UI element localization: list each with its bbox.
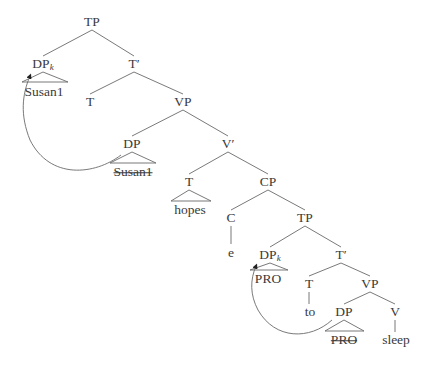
node-label-cp: CP: [260, 175, 277, 189]
node-label-tbar1: T′: [128, 57, 139, 71]
node-label-vp2: VP: [361, 277, 378, 291]
tree-branch: [183, 110, 228, 136]
node-label-dp1: DP: [123, 137, 140, 151]
node-text: V′: [222, 136, 235, 151]
tree-edges: [0, 0, 424, 366]
node-label-tp1: TP: [84, 15, 100, 29]
tree-branch: [305, 226, 341, 247]
node-label-tbar2: T′: [335, 248, 346, 262]
constituent-triangle: [171, 190, 211, 201]
tree-branch: [228, 152, 268, 174]
node-text: PRO: [255, 271, 281, 286]
node-label-susan_a: Susan1: [24, 85, 63, 99]
node-label-dp2: DP: [335, 305, 352, 319]
constituent-triangle: [22, 72, 68, 82]
node-label-t2: T: [185, 175, 193, 189]
constituent-triangle: [325, 320, 364, 331]
tree-branch: [134, 72, 183, 94]
index-subscript: k: [277, 253, 281, 263]
node-text: DP: [335, 304, 352, 319]
node-text: VP: [361, 276, 378, 291]
node-label-dpk1: DPk: [32, 57, 53, 72]
node-text: T′: [128, 56, 139, 71]
tree-branch: [189, 152, 228, 174]
tree-branch: [268, 190, 305, 210]
node-text: C: [226, 210, 235, 225]
node-text: sleep: [382, 332, 410, 347]
tree-branch: [370, 292, 395, 304]
node-label-sleep: sleep: [382, 333, 410, 347]
tree-branch: [270, 226, 305, 247]
node-text: e: [228, 245, 234, 260]
syntax-tree-diagram: TPDPkT′Susan1TVPDPV′Susan1TCPhopesCTPeDP…: [0, 0, 424, 366]
node-label-dpk2: DPk: [259, 248, 280, 263]
tree-branch: [341, 263, 370, 276]
node-label-to: to: [305, 305, 316, 319]
tree-branch: [92, 30, 134, 56]
node-label-t1: T: [86, 95, 94, 109]
tree-branch: [90, 72, 134, 94]
node-label-susan_b: Susan1: [113, 165, 152, 179]
node-text: TP: [84, 14, 100, 29]
node-label-pro_b: PRO: [331, 333, 357, 347]
index-subscript: k: [50, 62, 54, 72]
tree-branch: [309, 263, 341, 276]
node-text: T′: [335, 247, 346, 262]
node-text: TP: [297, 210, 313, 225]
node-text: Susan1: [113, 164, 152, 179]
node-label-e: e: [228, 246, 234, 260]
node-label-tp2: TP: [297, 211, 313, 225]
node-text: T: [86, 94, 94, 109]
node-label-t3: T: [305, 277, 313, 291]
tree-branch: [344, 292, 370, 304]
node-text: to: [305, 304, 316, 319]
node-text: DP: [123, 136, 140, 151]
node-text: V: [390, 304, 400, 319]
node-text: VP: [174, 94, 191, 109]
node-text: T: [305, 276, 313, 291]
node-label-pro_a: PRO: [255, 272, 281, 286]
tree-branch: [132, 110, 183, 136]
node-label-vbar: V′: [222, 137, 235, 151]
node-text: T: [185, 174, 193, 189]
node-label-vp1: VP: [174, 95, 191, 109]
node-text: PRO: [331, 332, 357, 347]
node-label-v: V: [390, 305, 400, 319]
node-text: DP: [32, 56, 49, 71]
node-text: DP: [259, 247, 276, 262]
node-label-hopes: hopes: [174, 203, 206, 217]
node-label-c: C: [226, 211, 235, 225]
node-text: hopes: [174, 202, 206, 217]
node-text: Susan1: [24, 84, 63, 99]
branch-lines: [43, 30, 395, 332]
node-text: CP: [260, 174, 277, 189]
tree-branch: [231, 190, 268, 210]
tree-branch: [43, 30, 92, 56]
